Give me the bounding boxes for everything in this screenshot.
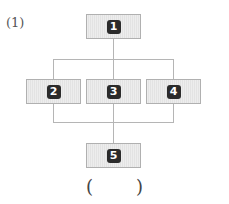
node-1: 1 xyxy=(86,14,141,39)
node-3-badge: 3 xyxy=(107,85,121,99)
problem-label: (1) xyxy=(6,15,24,30)
connector-1-down xyxy=(113,39,114,60)
node-5: 5 xyxy=(86,143,141,168)
node-1-badge: 1 xyxy=(107,20,121,34)
node-2-badge: 2 xyxy=(47,85,61,99)
node-4: 4 xyxy=(146,79,201,104)
connector-to-3 xyxy=(113,59,114,79)
connector-from-3 xyxy=(113,103,114,143)
connector-bottom-horizontal xyxy=(53,122,174,123)
connector-from-2 xyxy=(53,103,54,123)
node-4-badge: 4 xyxy=(167,85,181,99)
node-5-badge: 5 xyxy=(107,149,121,163)
connector-to-4 xyxy=(173,59,174,79)
answer-open-paren: ( xyxy=(86,176,93,197)
answer-close-paren: ) xyxy=(136,176,143,197)
node-2: 2 xyxy=(26,79,81,104)
node-3: 3 xyxy=(86,79,141,104)
connector-from-4 xyxy=(173,103,174,123)
connector-to-2 xyxy=(53,59,54,79)
